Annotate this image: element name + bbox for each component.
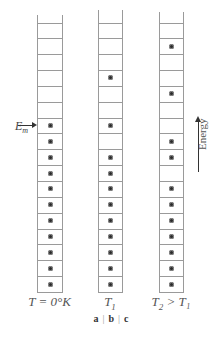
energy-level-line [98, 197, 123, 198]
energy-level-line [159, 276, 184, 277]
electron-dot [108, 123, 113, 128]
energy-level-line [98, 118, 123, 119]
energy-level-line [37, 213, 63, 214]
electron-dot [169, 282, 174, 287]
electron-dot [169, 139, 174, 144]
energy-level-line [37, 197, 63, 198]
energy-level-line [37, 181, 63, 182]
energy-level-line [37, 165, 63, 166]
fermi-level-arrow-icon [18, 125, 34, 126]
electron-dot [169, 250, 174, 255]
energy-level-line [159, 54, 184, 55]
temperature-label-a: T = 0°K [28, 294, 71, 310]
energy-level-line [37, 70, 63, 71]
energy-level-line [159, 86, 184, 87]
energy-level-line [159, 70, 184, 71]
energy-level-line [37, 23, 63, 24]
electron-dot [48, 234, 53, 239]
energy-level-line [159, 244, 184, 245]
figure-caption: a|b|c [93, 313, 128, 324]
electron-dot [169, 234, 174, 239]
energy-level-line [159, 260, 184, 261]
electron-dot [169, 266, 174, 271]
energy-level-line [98, 229, 123, 230]
electron-dot [169, 202, 174, 207]
energy-level-line [98, 133, 123, 134]
energy-level-line [37, 149, 63, 150]
energy-level-line [37, 260, 63, 261]
electron-dot [169, 155, 174, 160]
energy-level-line [159, 118, 184, 119]
ladder-right-rail [62, 15, 63, 293]
electron-dot [48, 202, 53, 207]
electron-dot [48, 123, 53, 128]
fermi-level-label: Em [15, 119, 28, 135]
energy-level-line [37, 244, 63, 245]
energy-level-line [37, 102, 63, 103]
electron-dot [48, 155, 53, 160]
energy-level-line [159, 213, 184, 214]
electron-dot [108, 266, 113, 271]
energy-level-line [37, 292, 63, 293]
energy-level-line [159, 197, 184, 198]
electron-dot [169, 186, 174, 191]
energy-level-line [37, 118, 63, 119]
electron-dot [169, 44, 174, 49]
electron-dot [48, 250, 53, 255]
electron-dot [48, 282, 53, 287]
energy-level-line [98, 23, 123, 24]
ladder-left-rail [37, 15, 38, 293]
energy-level-line [159, 229, 184, 230]
energy-level-line [159, 181, 184, 182]
electron-dot [48, 266, 53, 271]
temperature-label-c: T2 > T₁ [152, 294, 191, 312]
energy-level-line [37, 133, 63, 134]
energy-level-line [98, 276, 123, 277]
electron-dot [108, 171, 113, 176]
electron-dot [48, 171, 53, 176]
energy-level-line [98, 292, 123, 293]
energy-level-line [159, 292, 184, 293]
energy-level-line [98, 260, 123, 261]
electron-dot [48, 139, 53, 144]
electron-dot [108, 155, 113, 160]
energy-level-line [98, 165, 123, 166]
electron-dot [108, 250, 113, 255]
caption-b: b [108, 313, 114, 324]
energy-level-line [37, 38, 63, 39]
electron-dot [108, 234, 113, 239]
electron-dot [169, 218, 174, 223]
energy-level-line [159, 38, 184, 39]
energy-level-line [159, 133, 184, 134]
energy-level-line [98, 54, 123, 55]
energy-level-line [37, 54, 63, 55]
ladder-left-rail [98, 10, 99, 293]
electron-dot [108, 202, 113, 207]
energy-level-line [159, 102, 184, 103]
energy-level-line [98, 181, 123, 182]
electron-dot [108, 282, 113, 287]
electron-dot [48, 186, 53, 191]
electron-dot [108, 75, 113, 80]
energy-level-line [98, 149, 123, 150]
caption-c: c [124, 313, 128, 324]
energy-level-line [37, 276, 63, 277]
electron-dot [48, 218, 53, 223]
energy-level-line [98, 86, 123, 87]
energy-level-line [159, 149, 184, 150]
energy-level-line [98, 213, 123, 214]
energy-level-line [98, 38, 123, 39]
caption-a: a [93, 313, 98, 324]
energy-level-line [37, 86, 63, 87]
energy-level-line [37, 229, 63, 230]
ladder-right-rail [122, 10, 123, 293]
energy-level-line [98, 70, 123, 71]
temperature-label-b: T1 [104, 294, 116, 312]
electron-dot [108, 218, 113, 223]
energy-level-line [98, 244, 123, 245]
electron-dot [169, 91, 174, 96]
energy-level-line [98, 102, 123, 103]
energy-level-line [159, 23, 184, 24]
energy-axis-label: Energy [196, 118, 208, 150]
electron-dot [108, 186, 113, 191]
